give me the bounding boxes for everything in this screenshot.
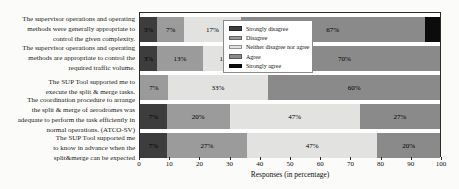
bar-value-label: 47% xyxy=(306,142,319,150)
bar-segment-disagree: 7% xyxy=(157,17,184,42)
bar-segment-strongly-agree xyxy=(425,17,440,42)
bar-segment-disagree: 7% xyxy=(140,75,168,100)
x-tick-label: 100 xyxy=(436,160,447,168)
bar-segment-disagree: 20% xyxy=(167,104,230,129)
x-axis: 0102030405060708090100 xyxy=(139,157,441,171)
x-tick-label: 70 xyxy=(347,160,354,168)
category-label: The supervisor operations and operating … xyxy=(0,43,135,73)
bar-segment-agree: 20% xyxy=(377,133,440,158)
x-axis-title: Responses (in percentage) xyxy=(139,170,441,179)
legend-swatch-icon xyxy=(229,36,242,41)
bar-row: 7%27%47%20% xyxy=(140,133,440,158)
bar-value-label: 60% xyxy=(348,84,361,92)
bar-value-label: 7% xyxy=(149,142,158,150)
bar-value-label: 27% xyxy=(393,113,406,121)
category-label: The coordination procedure to arrange th… xyxy=(0,95,135,135)
x-tick-label: 60 xyxy=(317,160,324,168)
bar-value-label: 17% xyxy=(206,26,219,34)
bar-segment-strongly-disagree: 7% xyxy=(140,104,167,129)
bar-value-label: 7% xyxy=(166,26,175,34)
bar-value-label: 7% xyxy=(149,84,158,92)
bar-value-label: 33% xyxy=(212,84,225,92)
legend-label: Disagree xyxy=(246,35,267,41)
bar-row: 7%20%47%27% xyxy=(140,104,440,129)
bar-value-label: 20% xyxy=(402,142,415,150)
bar-value-label: 3% xyxy=(144,55,153,63)
legend-entry: Strongly agree xyxy=(229,61,308,70)
category-labels: The supervisor operations and operating … xyxy=(0,0,137,189)
bar-segment-agree: 27% xyxy=(360,104,440,129)
category-label: The SUP Tool supported me to know in adv… xyxy=(0,133,135,163)
x-tick-label: 30 xyxy=(226,160,233,168)
bar-segment-strongly-disagree: 3% xyxy=(140,17,157,42)
legend-label: Strongly agree xyxy=(246,63,281,69)
legend-swatch-icon xyxy=(229,45,242,50)
x-tick-label: 10 xyxy=(166,160,173,168)
legend-swatch-icon xyxy=(229,54,242,59)
bar-value-label: 70% xyxy=(338,55,351,63)
legend-entry: Strongly disagree xyxy=(229,24,308,33)
bar-segment-neither-disagree-nor-agree: 47% xyxy=(247,133,377,158)
bar-value-label: 7% xyxy=(149,113,158,121)
bar-segment-neither-disagree-nor-agree: 47% xyxy=(230,104,360,129)
bar-value-label: 20% xyxy=(192,113,205,121)
category-label: The SUP Tool supported me to execute the… xyxy=(0,77,135,97)
bar-segment-strongly-disagree: 7% xyxy=(140,133,167,158)
legend-label: Neither disagree nor agree xyxy=(246,44,309,50)
legend-swatch-icon xyxy=(229,64,242,69)
category-label: The supervisor operations and operating … xyxy=(0,14,135,44)
bar-row: 7%33%60% xyxy=(140,75,440,100)
x-tick-label: 40 xyxy=(256,160,263,168)
x-tick-label: 90 xyxy=(407,160,414,168)
x-tick-label: 0 xyxy=(137,160,141,168)
bar-value-label: 3% xyxy=(144,26,153,34)
bar-value-label: 47% xyxy=(288,113,301,121)
legend-swatch-icon xyxy=(229,26,242,31)
bar-segment-agree: 60% xyxy=(268,75,440,100)
bar-segment-disagree: 13% xyxy=(157,46,203,71)
legend-entry: Disagree xyxy=(229,33,308,42)
bar-segment-strongly-disagree: 3% xyxy=(140,46,157,71)
likert-stacked-bar-chart: The supervisor operations and operating … xyxy=(0,0,459,189)
x-tick-label: 80 xyxy=(377,160,384,168)
x-tick-label: 50 xyxy=(287,160,294,168)
legend: Strongly disagreeDisagreeNeither disagre… xyxy=(223,20,313,73)
bar-segment-disagree: 27% xyxy=(167,133,247,158)
bar-segment-neither-disagree-nor-agree: 33% xyxy=(168,75,268,100)
x-tick-label: 20 xyxy=(196,160,203,168)
legend-entry: Neither disagree nor agree xyxy=(229,43,308,52)
plot-area: Strongly disagreeDisagreeNeither disagre… xyxy=(139,12,441,157)
bar-value-label: 13% xyxy=(174,55,187,63)
legend-entry: Agree xyxy=(229,52,308,61)
bar-value-label: 27% xyxy=(201,142,214,150)
bar-value-label: 67% xyxy=(326,26,339,34)
legend-label: Strongly disagree xyxy=(246,26,288,32)
legend-label: Agree xyxy=(246,54,261,60)
